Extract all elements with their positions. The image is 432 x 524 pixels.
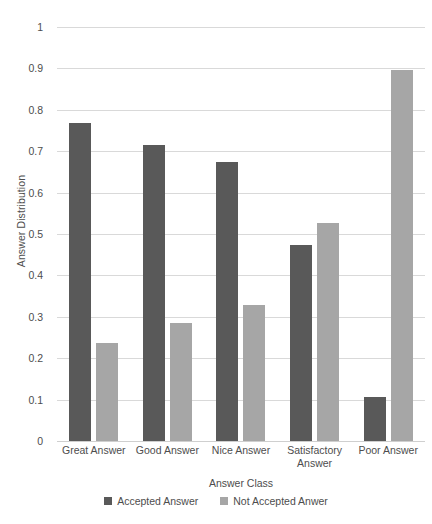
gridline — [57, 441, 425, 442]
legend-swatch-icon — [220, 497, 228, 505]
bar-group — [278, 27, 352, 441]
bar[interactable] — [317, 223, 339, 441]
x-axis-tick-label: Satisfactory Answer — [278, 444, 352, 470]
bar-group — [351, 27, 425, 441]
bar-group — [131, 27, 205, 441]
chart-legend: Accepted AnswerNot Accepted Anwer — [0, 495, 432, 507]
bar[interactable] — [69, 123, 91, 441]
y-axis-tick-label: 0.8 — [28, 104, 43, 116]
legend-item[interactable]: Not Accepted Anwer — [220, 495, 328, 507]
y-axis-tick-label: 0.4 — [28, 269, 43, 281]
y-axis-tick-label: 0 — [37, 435, 43, 447]
bar[interactable] — [391, 70, 413, 441]
bar[interactable] — [243, 305, 265, 441]
x-axis-title-label: Answer Class — [209, 477, 273, 489]
bar-group-bars — [131, 27, 205, 441]
y-axis-tick-labels: 00.10.20.30.40.50.60.70.80.91 — [0, 27, 50, 441]
y-axis-tick-label: 0.3 — [28, 311, 43, 323]
y-axis-tick-label: 0.6 — [28, 187, 43, 199]
bar-group-bars — [278, 27, 352, 441]
x-axis-tick-label: Great Answer — [57, 444, 131, 470]
x-axis-tick-labels: Great AnswerGood AnswerNice AnswerSatisf… — [57, 444, 425, 470]
bar-groups — [57, 27, 425, 441]
bar-chart: Answer Distribution 00.10.20.30.40.50.60… — [0, 0, 432, 524]
bar-group-bars — [351, 27, 425, 441]
x-axis-tick-label: Nice Answer — [204, 444, 278, 470]
y-axis-tick-label: 0.7 — [28, 145, 43, 157]
y-axis-tick-label: 0.2 — [28, 352, 43, 364]
x-axis-tick-label: Poor Answer — [351, 444, 425, 470]
bar[interactable] — [290, 245, 312, 441]
legend-swatch-icon — [104, 497, 112, 505]
bar-group-bars — [57, 27, 131, 441]
plot-area — [57, 27, 425, 441]
y-axis-tick-label: 1 — [37, 21, 43, 33]
legend-item[interactable]: Accepted Answer — [104, 495, 198, 507]
bar-group-bars — [204, 27, 278, 441]
legend-label: Accepted Answer — [117, 495, 198, 507]
bar-group — [57, 27, 131, 441]
y-axis-tick-label: 0.5 — [28, 228, 43, 240]
bar[interactable] — [143, 145, 165, 441]
bar[interactable] — [364, 397, 386, 441]
x-axis-title: Answer Class — [57, 477, 425, 489]
bar[interactable] — [170, 323, 192, 441]
x-axis-tick-label: Good Answer — [131, 444, 205, 470]
y-axis-tick-label: 0.9 — [28, 62, 43, 74]
bar-group — [204, 27, 278, 441]
y-axis-tick-label: 0.1 — [28, 394, 43, 406]
bar[interactable] — [96, 343, 118, 441]
bar[interactable] — [216, 162, 238, 441]
legend-label: Not Accepted Anwer — [233, 495, 328, 507]
